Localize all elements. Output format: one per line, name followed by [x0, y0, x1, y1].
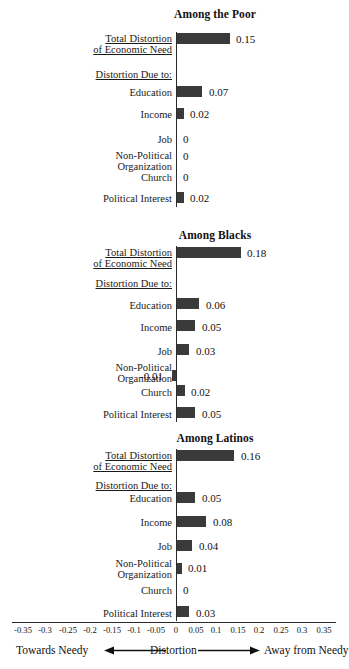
x-tick--0.3: -0.3 — [38, 626, 52, 635]
legend-away-from-needy: Away from Needy — [264, 644, 349, 657]
x-tick--0.35: -0.35 — [14, 626, 32, 635]
row-label-total-line1: Total Distortion — [52, 33, 172, 44]
row-label-nonpolitical: Non-Political Organization — [52, 150, 172, 172]
value-political-interest-poor: 0.02 — [190, 193, 209, 204]
x-tick-0.35: 0.35 — [316, 626, 331, 635]
row-label-education: Education — [129, 493, 172, 505]
row-label-total-distortion: Total Distortion of Economic Need — [52, 247, 172, 269]
bar-education-blacks — [177, 298, 199, 309]
bar-income-poor — [177, 108, 184, 119]
value-political-interest-latinos: 0.03 — [196, 608, 215, 619]
panel-title-blacks: Among Blacks — [100, 229, 330, 241]
row-label-nonpolitical-line2: Organization — [117, 569, 172, 580]
bar-political-interest-latinos — [177, 606, 189, 617]
zero-axis-line-poor — [176, 32, 177, 207]
value-total-distortion-blacks: 0.18 — [247, 248, 266, 259]
row-label-education: Education — [129, 300, 172, 312]
right-arrow-icon — [198, 644, 260, 657]
bar-church-blacks — [177, 385, 185, 396]
row-label-church: Church — [141, 172, 172, 184]
panel-among-the-poor: Among the Poor Total Distortion of Econo… — [0, 0, 348, 215]
row-label-nonpolitical-line1: Non-Political — [115, 150, 172, 161]
row-label-group-header: Distortion Due to: — [96, 480, 172, 492]
row-label-nonpolitical-line2: Organization — [117, 161, 172, 172]
value-income-latinos: 0.08 — [213, 517, 232, 528]
value-education-latinos: 0.05 — [202, 493, 221, 504]
row-label-income: Income — [141, 322, 173, 334]
row-label-church: Church — [141, 387, 172, 399]
x-tick--0.2: -0.2 — [83, 626, 97, 635]
row-label-income: Income — [141, 109, 173, 121]
row-label-church: Church — [141, 585, 172, 597]
panel-among-latinos: Among Latinos Total Distortion of Econom… — [0, 430, 348, 630]
x-tick--0.1: -0.1 — [127, 626, 141, 635]
legend-distortion: Distortion — [150, 644, 197, 657]
legend-towards-needy: Towards Needy — [16, 644, 88, 657]
bar-political-interest-blacks — [177, 407, 195, 418]
x-tick--0.15: -0.15 — [103, 626, 121, 635]
bar-nonpolitical-latinos — [177, 563, 182, 574]
value-job-latinos: 0.04 — [199, 541, 218, 552]
x-tick-0.2: 0.2 — [254, 626, 265, 635]
axis-direction-legend: Towards Needy Distortion Away from Needy — [0, 644, 348, 664]
bar-job-blacks — [177, 344, 189, 355]
row-label-total-line2: of Economic Need — [52, 44, 172, 55]
row-label-total-line1: Total Distortion — [52, 450, 172, 461]
row-label-group-header: Distortion Due to: — [96, 69, 172, 81]
zero-axis-line-latinos — [176, 449, 177, 621]
bar-income-latinos — [177, 516, 206, 527]
x-tick-0.25: 0.25 — [273, 626, 288, 635]
bar-total-distortion-latinos — [177, 450, 234, 461]
x-tick-0: 0 — [174, 626, 178, 635]
value-church-poor: 0 — [183, 172, 189, 183]
x-tick-0.05: 0.05 — [188, 626, 203, 635]
row-label-job: Job — [157, 346, 172, 358]
row-label-job: Job — [157, 134, 172, 146]
x-tick-0.1: 0.1 — [211, 626, 222, 635]
row-label-political-interest: Political Interest — [103, 608, 172, 620]
row-label-nonpolitical: Non-Political Organization — [52, 558, 172, 580]
row-label-total-line2: of Economic Need — [52, 461, 172, 472]
row-label-job: Job — [157, 541, 172, 553]
row-label-total-distortion: Total Distortion of Economic Need — [52, 33, 172, 55]
panel-title-latinos: Among Latinos — [100, 432, 330, 444]
value-church-latinos: 0 — [183, 585, 189, 596]
value-nonpolitical-poor: 0 — [183, 151, 189, 162]
value-education-poor: 0.07 — [209, 87, 228, 98]
row-label-total-line2: of Economic Need — [52, 258, 172, 269]
x-axis-line — [12, 622, 336, 623]
x-tick-0.15: 0.15 — [230, 626, 245, 635]
value-income-poor: 0.02 — [190, 109, 209, 120]
bar-income-blacks — [177, 320, 195, 331]
row-label-income: Income — [141, 517, 173, 529]
row-label-total-distortion: Total Distortion of Economic Need — [52, 450, 172, 472]
bar-nonpolitical-blacks — [172, 370, 176, 381]
value-nonpolitical-latinos: 0.01 — [188, 563, 207, 574]
row-label-group-header: Distortion Due to: — [96, 278, 172, 290]
value-job-blacks: 0.03 — [196, 346, 215, 357]
value-income-blacks: 0.05 — [202, 322, 221, 333]
value-education-blacks: 0.06 — [206, 300, 225, 311]
value-job-poor: 0 — [183, 134, 189, 145]
x-tick--0.05: -0.05 — [147, 626, 165, 635]
bar-job-latinos — [177, 540, 192, 551]
bar-political-interest-poor — [177, 192, 184, 203]
row-label-nonpolitical-line1: Non-Political — [115, 558, 172, 569]
value-total-distortion-latinos: 0.16 — [241, 451, 260, 462]
bar-total-distortion-poor — [177, 33, 230, 44]
value-nonpolitical-blacks: -0.01 — [140, 371, 163, 382]
row-label-education: Education — [129, 87, 172, 99]
value-political-interest-blacks: 0.05 — [202, 409, 221, 420]
bar-education-latinos — [177, 492, 195, 503]
x-tick-0.3: 0.3 — [297, 626, 308, 635]
panel-among-blacks: Among Blacks Total Distortion of Economi… — [0, 215, 348, 430]
value-total-distortion-poor: 0.15 — [236, 34, 255, 45]
bar-total-distortion-blacks — [177, 247, 241, 258]
row-label-political-interest: Political Interest — [103, 193, 172, 205]
bar-education-poor — [177, 86, 202, 97]
row-label-total-line1: Total Distortion — [52, 247, 172, 258]
row-label-political-interest: Political Interest — [103, 409, 172, 421]
x-tick--0.25: -0.25 — [59, 626, 77, 635]
panel-title-poor: Among the Poor — [100, 8, 330, 20]
